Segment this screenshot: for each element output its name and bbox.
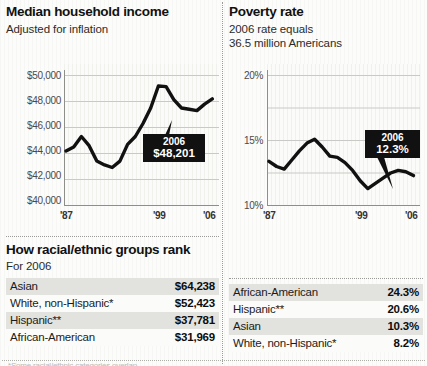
row-label: Asian — [229, 318, 372, 335]
table-row[interactable]: African-American $31,969 — [6, 329, 219, 346]
row-value: 20.6% — [372, 301, 423, 318]
table-row[interactable]: Asian 10.3% — [229, 318, 423, 335]
infographic-root: Median household income Adjusted for inf… — [0, 0, 427, 366]
poverty-rank-table-block: African-American 24.3% Hispanic** 20.6% … — [229, 284, 423, 352]
poverty-rank-table: African-American 24.3% Hispanic** 20.6% … — [229, 284, 423, 352]
income-line-chart: $50,000 $48,000 $46,000 $44,000 $42,000 … — [6, 64, 219, 229]
poverty-callout-year: 2006 — [370, 132, 415, 144]
income-callout-value: $48,201 — [148, 148, 200, 160]
row-label: Asian — [6, 278, 155, 295]
right-panel-subtitle-line2: 36.5 million Americans — [229, 37, 423, 51]
row-value: $64,238 — [155, 278, 219, 295]
income-rank-table: Asian $64,238 White, non-Hispanic* $52,4… — [6, 278, 219, 346]
panel-median-household-income: Median household income Adjusted for inf… — [6, 4, 219, 362]
y-tick-label-44000: $44,000 — [6, 145, 61, 156]
y-tick-label-46000: $46,000 — [6, 120, 61, 131]
row-value: 8.2% — [372, 335, 423, 352]
y-tick-label-40000: $40,000 — [6, 195, 61, 206]
poverty-callout-pointer — [373, 155, 401, 189]
x-tick-label-87: '87 — [263, 210, 276, 221]
income-callout: 2006 $48,201 — [143, 134, 205, 162]
row-label: Hispanic** — [229, 301, 372, 318]
y-tick-label-15pct: 15% — [229, 135, 263, 146]
income-rank-table-block: How racial/ethnic groups rank For 2006 A… — [6, 242, 219, 346]
row-value: $52,423 — [155, 295, 219, 312]
table-row[interactable]: White, non-Hispanic* 8.2% — [229, 335, 423, 352]
y-tick-label-10pct: 10% — [229, 200, 263, 211]
y-tick-label-20pct: 20% — [229, 70, 263, 81]
poverty-callout-value: 12.3% — [370, 144, 415, 156]
income-callout-year: 2006 — [148, 136, 200, 148]
x-tick-label-99: '99 — [153, 210, 166, 221]
table-row[interactable]: Hispanic** $37,781 — [6, 312, 219, 329]
right-panel-title: Poverty rate — [229, 4, 423, 19]
x-tick-label-06: '06 — [203, 210, 216, 221]
y-tick-label-42000: $42,000 — [6, 170, 61, 181]
left-panel-subtitle: Adjusted for inflation — [6, 23, 219, 37]
row-value: 24.3% — [372, 284, 423, 301]
left-table-subtitle: For 2006 — [6, 260, 219, 274]
table-row[interactable]: Hispanic** 20.6% — [229, 301, 423, 318]
poverty-line-chart: 20% 15% 10% — [229, 64, 423, 229]
row-label: African-American — [229, 284, 372, 301]
row-label: White, non-Hispanic* — [229, 335, 372, 352]
row-label: White, non-Hispanic* — [6, 295, 155, 312]
x-tick-label-99: '99 — [355, 210, 368, 221]
left-panel-title: Median household income — [6, 4, 219, 19]
row-value: $37,781 — [155, 312, 219, 329]
footnote: *Some racial/ethnic categories overlap — [8, 361, 308, 366]
row-value: $31,969 — [155, 329, 219, 346]
y-tick-label-48000: $48,000 — [6, 95, 61, 106]
y-tick-label-50000: $50,000 — [6, 70, 61, 81]
row-label: Hispanic** — [6, 312, 155, 329]
x-tick-label-06: '06 — [405, 210, 418, 221]
row-label: African-American — [6, 329, 155, 346]
table-row[interactable]: African-American 24.3% — [229, 284, 423, 301]
vertical-divider — [222, 2, 223, 364]
row-value: 10.3% — [372, 318, 423, 335]
poverty-callout: 2006 12.3% — [365, 130, 420, 158]
left-table-title: How racial/ethnic groups rank — [6, 242, 219, 257]
table-row[interactable]: White, non-Hispanic* $52,423 — [6, 295, 219, 312]
x-tick-label-87: '87 — [60, 210, 73, 221]
right-panel-subtitle-line1: 2006 rate equals — [229, 23, 423, 37]
panel-poverty-rate: Poverty rate 2006 rate equals 36.5 milli… — [229, 4, 423, 362]
table-row[interactable]: Asian $64,238 — [6, 278, 219, 295]
